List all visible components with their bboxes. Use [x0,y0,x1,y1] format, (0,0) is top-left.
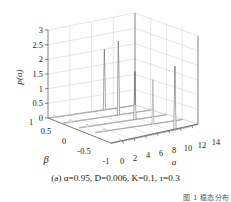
z-tick-label: 3 [39,26,43,35]
z-tick-label: 1 [39,85,43,94]
x-tick-label: 8 [172,146,176,155]
y-tick-label: 0.5 [41,127,51,136]
corner-note: 图 1 稳态分布 [183,192,230,202]
x-tick-label: 4 [146,151,151,160]
z-axis-ticks [45,30,48,118]
x-tick-label: 0 [120,157,124,166]
z-tick-label: 0.5 [33,99,43,108]
y-tick-label: -0.5 [77,147,90,156]
x-tick-labels: 0 2 4 6 8 10 12 14 [120,138,221,166]
x-tick-label: 10 [184,144,192,153]
figure-caption: (a) α=0.95, D=0.006, K=0.1, τ=0.3 [0,172,231,184]
y-tick-label: 1 [29,118,33,127]
y-tick-label: -1 [103,157,110,166]
z-tick-label: 2 [39,55,43,64]
y-axis-title: β [42,154,49,165]
z-tick-label: 1.5 [33,70,43,79]
z-tick-label: 2.5 [33,41,43,50]
x-tick-label: 14 [212,138,221,147]
x-tick-label: 6 [159,149,163,158]
x-tick-label: 2 [133,154,137,163]
y-tick-label: 0 [62,137,66,146]
z-axis-title: p(a) [14,69,24,85]
z-tick-labels: 3 2.5 2 1.5 1 0.5 0 [33,26,43,123]
x-axis-title: a [172,157,177,167]
z-tick-label: 0 [39,114,43,123]
x-tick-label: 12 [198,141,206,150]
figure-panel: 3 2.5 2 1.5 1 0.5 0 p(a) 1 0.5 0 -0.5 -1… [0,0,231,202]
